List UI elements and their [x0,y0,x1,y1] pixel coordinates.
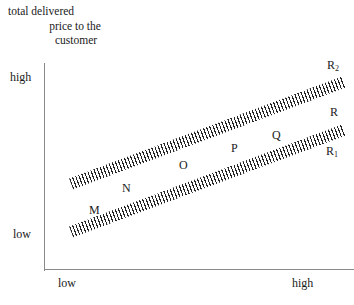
label-q: Q [272,128,281,143]
label-n: N [122,181,131,196]
chart-container: total delivered price to the customer hi… [0,0,354,305]
label-r2-base: R [327,58,335,72]
label-r2: R2 [327,58,339,73]
label-r: R [330,105,338,120]
label-r1: R1 [326,144,338,159]
y-axis-title-line-1: total delivered [6,4,156,19]
label-r2-subscript: 2 [335,64,339,73]
y-axis-tick-low: low [13,227,31,242]
hatched-band-lower [69,124,346,237]
label-o: O [179,158,188,173]
x-axis-tick-low: low [58,276,76,291]
y-axis-title-line-2: price to the [6,19,156,34]
y-axis-title-line-3: customer [6,33,156,48]
y-axis-title: total delivered price to the customer [6,4,156,48]
label-r1-subscript: 1 [334,150,338,159]
y-axis-tick-high: high [10,70,31,85]
hatch-pattern-lower [69,124,346,237]
hatch-pattern-upper [69,76,346,189]
hatched-band-upper [69,76,346,189]
label-m: M [89,203,100,218]
label-p: P [231,141,238,156]
label-r1-base: R [326,144,334,158]
plot-area [44,63,354,270]
x-axis-tick-high: high [292,276,313,291]
